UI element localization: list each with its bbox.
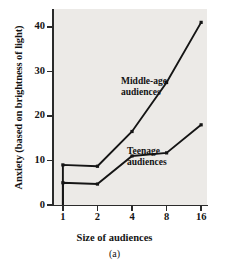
x-axis-title: Size of audiences [0, 232, 229, 243]
series-label-teenage-line2: audiences [127, 157, 167, 168]
data-point [200, 21, 203, 24]
x-tick-label-8: 8 [155, 212, 179, 223]
data-point [200, 123, 203, 126]
x-tick-label-16: 16 [189, 212, 213, 223]
y-tick-label-10: 10 [15, 155, 45, 166]
data-point [61, 163, 64, 166]
x-tick-label-1: 1 [51, 212, 75, 223]
y-tick-0 [47, 204, 53, 205]
series-label-teenage-line1: Teenage [127, 146, 167, 157]
y-tick-10 [47, 160, 53, 161]
x-tick-label-2: 2 [85, 212, 109, 223]
series-label-middle-age-line1: Middle-age [121, 76, 167, 87]
data-point [130, 130, 133, 133]
data-point [61, 181, 64, 184]
y-tick-40 [47, 26, 53, 27]
y-tick-20 [47, 115, 53, 116]
series-line-middle-age [63, 22, 201, 205]
y-tick-30 [47, 71, 53, 72]
x-tick-label-4: 4 [120, 212, 144, 223]
y-tick-label-20: 20 [15, 110, 45, 121]
y-tick-label-0: 0 [15, 200, 45, 211]
figure-caption: (a) [0, 248, 229, 259]
series-layer [0, 0, 229, 266]
data-point [96, 182, 99, 185]
series-label-middle-age: Middle-age audiences [121, 76, 167, 98]
figure-panel: Anxiety (based on brightness of light) M… [0, 0, 229, 266]
series-label-teenage: Teenage audiences [127, 146, 167, 168]
series-label-middle-age-line2: audiences [121, 87, 167, 98]
y-tick-label-30: 30 [15, 66, 45, 77]
data-point [96, 165, 99, 168]
y-tick-label-40: 40 [15, 21, 45, 32]
